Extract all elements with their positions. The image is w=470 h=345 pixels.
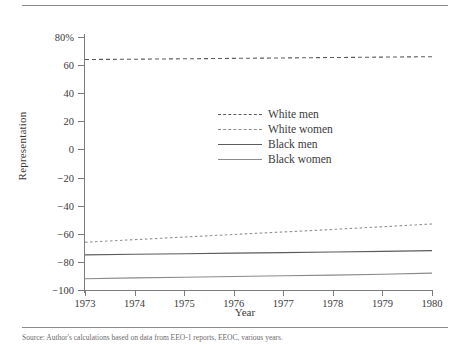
figure-page: Representation Year 80%6040200−20−40−60−…: [0, 0, 470, 345]
series-line: [85, 251, 432, 255]
legend-item: Black women: [218, 151, 368, 166]
legend-swatch: [218, 124, 262, 134]
legend-label: Black women: [262, 153, 332, 165]
legend-item: White men: [218, 106, 368, 121]
series-line: [85, 224, 432, 242]
figure-caption: Source: Author's calculations based on d…: [22, 333, 448, 343]
line-chart: Representation Year 80%6040200−20−40−60−…: [0, 10, 470, 322]
legend-label: White women: [262, 123, 333, 135]
top-rule: [22, 5, 448, 6]
legend-swatch: [218, 109, 262, 119]
chart-legend: White menWhite womenBlack menBlack women: [218, 106, 368, 166]
series-line: [85, 57, 432, 60]
legend-label: White men: [262, 108, 319, 120]
legend-item: Black men: [218, 136, 368, 151]
legend-swatch: [218, 139, 262, 149]
series-line: [85, 273, 432, 279]
legend-label: Black men: [262, 138, 318, 150]
legend-swatch: [218, 154, 262, 164]
plot-lines: [0, 10, 470, 322]
legend-item: White women: [218, 121, 368, 136]
bottom-rule: [22, 327, 448, 328]
